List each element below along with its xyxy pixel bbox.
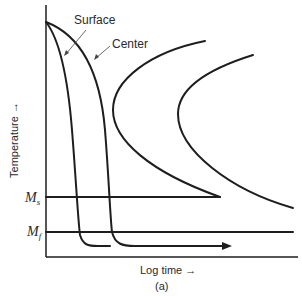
ttt-diagram: Surface Center Temperature → Ms Mf Log t… [0,0,302,296]
x-axis-arrow-icon: → [185,264,196,276]
transformation-start-curve [113,41,220,197]
ms-label: Ms [24,190,41,207]
x-axis-label: Log time → [140,264,196,276]
center-label: Center [112,37,148,51]
y-axis-label: Temperature → [8,102,20,178]
surface-leader [66,30,86,54]
arrow-head-icon [222,242,232,250]
figure-caption: (a) [155,280,168,292]
center-leader-arrow-icon [94,54,99,60]
y-axis-arrow-icon: → [8,102,20,113]
mf-label: Mf [26,224,43,241]
surface-label: Surface [74,13,116,27]
surface-cooling-curve [46,22,110,246]
transformation-finish-curve [178,55,293,208]
